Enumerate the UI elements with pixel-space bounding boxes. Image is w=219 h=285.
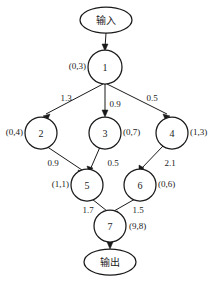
edge-line (90, 147, 100, 170)
flow-graph-diagram: 1.3 0.9 0.5 0.9 (0, 0, 219, 285)
node-layer: 1 (0,3) 2 (0,4) 3 (0,7) 4 (1,3) 5 (6, 50, 208, 242)
node-6-label: 6 (138, 180, 143, 191)
node-2-label: 2 (39, 128, 44, 139)
edge-4-to-6: 2.1 (139, 146, 176, 172)
node-2-annotation: (0,4) (6, 127, 23, 137)
node-1[interactable]: 1 (0,3) (69, 50, 122, 84)
node-6-annotation: (0,6) (158, 179, 175, 189)
edge-1-to-2: 1.3 (43, 84, 103, 119)
edge-line (141, 146, 163, 169)
node-3-annotation: (0,7) (123, 127, 140, 137)
edge-label-1-3: 0.9 (109, 99, 121, 109)
node-1-annotation: (0,3) (69, 61, 86, 71)
edge-label-5-7: 1.7 (82, 205, 94, 215)
node-7-label: 7 (108, 221, 113, 232)
edge-label-4-6: 2.1 (164, 158, 175, 168)
node-4-annotation: (1,3) (190, 127, 207, 137)
node-6[interactable]: 6 (0,6) (124, 169, 175, 201)
edge-label-1-4: 0.5 (146, 93, 158, 103)
edge-7-to-output (107, 242, 113, 249)
arrow-head-icon (107, 242, 113, 249)
edge-input-to-1 (102, 33, 108, 51)
edge-label-1-2: 1.3 (60, 93, 72, 103)
node-2[interactable]: 2 (0,4) (6, 117, 57, 149)
node-1-label: 1 (103, 62, 108, 73)
edge-label-2-5: 0.9 (47, 158, 59, 168)
edge-line (46, 84, 103, 114)
node-7-annotation: (9,8) (129, 221, 146, 231)
arrow-head-icon (102, 110, 108, 117)
terminal-output[interactable]: 输出 (84, 249, 136, 275)
node-4[interactable]: 4 (1,3) (156, 117, 207, 149)
node-5[interactable]: 5 (1,1) (52, 169, 103, 201)
terminal-input[interactable]: 输入 (80, 7, 132, 33)
node-5-label: 5 (85, 180, 90, 191)
edge-line (92, 199, 107, 211)
edge-1-to-3: 0.9 (102, 84, 121, 117)
graph-canvas: 1.3 0.9 0.5 0.9 (0, 0, 219, 285)
node-4-label: 4 (170, 128, 175, 139)
node-3-label: 3 (103, 128, 108, 139)
edge-label-6-7: 1.5 (132, 205, 144, 215)
node-5-annotation: (1,1) (52, 179, 69, 189)
edge-label-3-5: 0.5 (107, 158, 119, 168)
terminal-input-label: 输入 (96, 14, 116, 26)
terminal-output-label: 输出 (100, 256, 120, 268)
node-3[interactable]: 3 (0,7) (89, 117, 140, 149)
